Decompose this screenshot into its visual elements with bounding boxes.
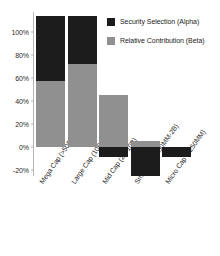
y-tick-label: 80% — [15, 52, 29, 59]
bar-group[interactable] — [162, 0, 191, 256]
bar-segment-alpha[interactable] — [162, 147, 191, 157]
bar-group[interactable] — [131, 0, 160, 256]
attribution-bar-chart: -20%0%20%40%60%80%100% Security Selectio… — [0, 0, 220, 256]
bar-group[interactable] — [99, 0, 128, 256]
bar-segment-alpha[interactable] — [68, 16, 97, 64]
bar-segment-alpha[interactable] — [99, 147, 128, 157]
bar-segment-beta[interactable] — [99, 95, 128, 147]
bar-segment-beta[interactable] — [36, 81, 65, 147]
bar-group[interactable] — [36, 0, 65, 256]
y-tick-label: 0% — [19, 144, 29, 151]
y-tick-label: -20% — [13, 167, 29, 174]
y-tick-label: 40% — [15, 98, 29, 105]
y-tick-label: 20% — [15, 121, 29, 128]
bar-group[interactable] — [68, 0, 97, 256]
bar-segment-alpha[interactable] — [36, 16, 65, 82]
y-tick-label: 100% — [11, 29, 29, 36]
y-tick-label: 60% — [15, 75, 29, 82]
bar-segment-alpha[interactable] — [131, 147, 160, 176]
y-axis-tick-labels: -20%0%20%40%60%80%100% — [0, 0, 31, 256]
bar-segment-beta[interactable] — [68, 64, 97, 147]
